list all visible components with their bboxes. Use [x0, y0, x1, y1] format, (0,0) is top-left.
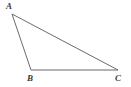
vertex-label-c: C	[115, 74, 121, 83]
triangle-diagram	[0, 0, 131, 87]
vertex-label-a: A	[6, 2, 12, 11]
triangle-shape	[12, 14, 118, 70]
vertex-label-b: B	[27, 74, 33, 83]
triangle-figure: A B C	[0, 0, 131, 87]
